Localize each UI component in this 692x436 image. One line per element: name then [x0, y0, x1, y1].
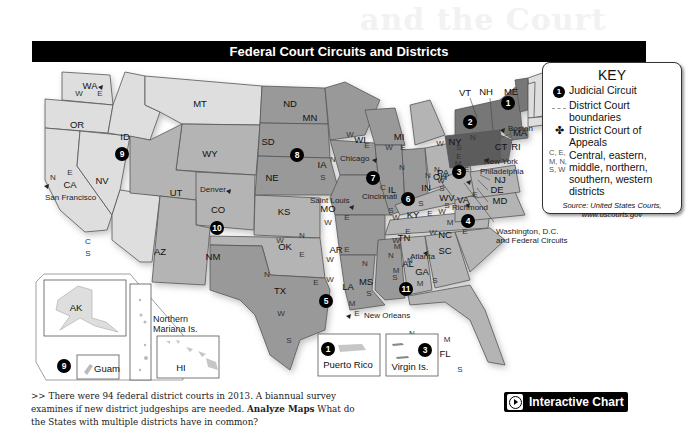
svg-text:C: C [85, 237, 91, 246]
svg-text:11: 11 [402, 284, 411, 294]
circuit-number-icon: 1 [553, 86, 565, 98]
svg-text:WY: WY [202, 148, 218, 159]
svg-text:E: E [364, 141, 369, 150]
svg-text:IN: IN [421, 182, 431, 193]
svg-text:Mariana Is.: Mariana Is. [153, 324, 198, 334]
svg-text:W: W [75, 89, 83, 98]
svg-text:E: E [456, 152, 461, 161]
svg-text:N: N [299, 231, 305, 240]
svg-text:NC: NC [438, 229, 452, 240]
svg-text:NV: NV [95, 175, 109, 186]
svg-text:C: C [380, 183, 386, 192]
svg-text:Richmond: Richmond [452, 203, 488, 212]
svg-text:W: W [385, 143, 393, 152]
key-row-boundaries: District Courtboundaries [549, 99, 675, 123]
svg-text:W: W [324, 218, 332, 227]
caribbean-insets: Puerto Rico 1 Virgin Is. 3 [318, 334, 438, 376]
svg-text:and Federal Circuits: and Federal Circuits [496, 236, 568, 245]
svg-text:M: M [444, 335, 451, 344]
svg-text:AR: AR [329, 244, 342, 255]
svg-text:S: S [456, 143, 461, 152]
svg-text:New Orleans: New Orleans [364, 311, 410, 320]
svg-text:7: 7 [371, 173, 376, 183]
svg-text:NH: NH [479, 86, 493, 97]
svg-text:N: N [362, 259, 368, 268]
svg-text:N: N [470, 133, 476, 142]
svg-text:E: E [400, 143, 405, 152]
svg-text:TX: TX [274, 285, 287, 296]
svg-text:CA: CA [63, 179, 77, 190]
svg-text:IA: IA [318, 159, 328, 170]
svg-text:E: E [354, 309, 359, 318]
svg-text:NE: NE [265, 172, 278, 183]
svg-text:Saint Louis: Saint Louis [310, 196, 350, 205]
svg-text:E: E [344, 245, 349, 254]
svg-text:S: S [418, 199, 423, 208]
svg-text:OR: OR [70, 119, 84, 130]
svg-text:2: 2 [468, 117, 473, 127]
svg-text:S: S [320, 173, 325, 182]
svg-text:S: S [366, 289, 371, 298]
svg-text:KY: KY [407, 209, 420, 220]
gavel-icon: ✤ [549, 124, 569, 136]
svg-text:S: S [457, 365, 462, 374]
svg-text:MN: MN [303, 112, 318, 123]
svg-text:NM: NM [206, 251, 221, 262]
svg-text:N: N [330, 155, 336, 164]
map-caption: >> There were 94 federal district courts… [31, 390, 361, 429]
key-row-appeals: ✤ District Court ofAppeals [549, 124, 675, 148]
svg-text:S: S [85, 249, 90, 258]
svg-text:SC: SC [438, 245, 451, 256]
interactive-chart-label: Interactive Chart [529, 395, 624, 409]
svg-text:10: 10 [212, 223, 222, 233]
svg-text:Puerto Rico: Puerto Rico [323, 359, 373, 370]
svg-text:1: 1 [326, 344, 331, 354]
svg-text:4: 4 [466, 216, 471, 226]
svg-text:AK: AK [70, 302, 83, 313]
svg-text:N: N [425, 171, 431, 180]
svg-text:M: M [394, 242, 401, 251]
interactive-chart-button[interactable]: Interactive Chart [504, 392, 628, 412]
svg-text:MS: MS [359, 276, 373, 287]
svg-text:DE: DE [490, 184, 503, 195]
svg-text:9: 9 [120, 149, 125, 159]
svg-text:S: S [432, 276, 437, 285]
svg-text:8: 8 [295, 150, 300, 160]
svg-text:CO: CO [211, 204, 225, 215]
key-title: KEY [543, 67, 681, 83]
svg-text:New York: New York [484, 157, 519, 166]
play-icon [507, 394, 523, 410]
svg-text:M: M [417, 279, 424, 288]
svg-text:W: W [326, 255, 334, 264]
svg-text:CT: CT [495, 141, 508, 152]
svg-text:Virgin Is.: Virgin Is. [392, 361, 429, 372]
svg-text:AZ: AZ [154, 246, 166, 257]
svg-text:E: E [97, 89, 102, 98]
analyze-maps-label: Analyze Maps [247, 404, 315, 414]
svg-text:W: W [276, 236, 284, 245]
svg-text:WA: WA [83, 80, 99, 91]
svg-text:W: W [346, 130, 354, 139]
key-row-abbreviations: C, E, M, N, S, W Central, eastern,middle… [549, 149, 675, 197]
svg-text:Boston: Boston [508, 124, 533, 133]
svg-text:W: W [392, 213, 400, 222]
svg-text:MD: MD [493, 195, 508, 206]
svg-text:E: E [299, 250, 304, 259]
svg-text:W: W [277, 309, 285, 318]
svg-text:M: M [393, 266, 400, 275]
svg-text:Philadelphia: Philadelphia [480, 167, 524, 176]
key-row-circuit: 1 Judicial Circuit [549, 84, 675, 98]
pacific-insets: AK Northern Mariana Is. HI Guam 9 [36, 274, 219, 380]
svg-text:5: 5 [324, 296, 329, 306]
svg-text:FL: FL [439, 348, 450, 359]
svg-text:GA: GA [415, 266, 429, 277]
svg-text:SD: SD [261, 136, 274, 147]
svg-text:E: E [67, 168, 72, 177]
svg-text:W: W [436, 139, 444, 148]
svg-text:E: E [427, 209, 432, 218]
svg-text:Washington, D.C.: Washington, D.C. [496, 227, 558, 236]
svg-text:M: M [447, 218, 454, 227]
svg-text:3: 3 [457, 167, 462, 177]
svg-text:N: N [399, 163, 405, 172]
svg-text:6: 6 [406, 194, 411, 204]
